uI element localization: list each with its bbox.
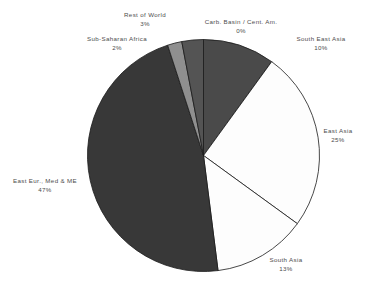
slice-label-name: East Asia (310, 126, 366, 135)
slice-label-name: South Asia (254, 255, 318, 264)
slice-label-name: Rest of World (108, 10, 182, 19)
slice-label-east-eur-med-me: East Eur., Med & ME 47% (4, 176, 86, 194)
slice-label-south-east-asia: South East Asia 10% (278, 34, 364, 52)
slice-label-name: Sub-Saharan Africa (68, 34, 166, 43)
pie-chart-screenshot: Rest of World 3% Carb. Basin / Cent. Am.… (0, 0, 370, 291)
slice-label-percent: 13% (254, 264, 318, 273)
slice-label-name: Carb. Basin / Cent. Am. (186, 17, 296, 26)
pie-slices-group (87, 40, 319, 272)
slice-label-percent: 25% (310, 135, 366, 144)
slice-label-carb-basin: Carb. Basin / Cent. Am. 0% (186, 17, 296, 35)
slice-label-sub-saharan-africa: Sub-Saharan Africa 2% (68, 34, 166, 52)
slice-label-percent: 47% (4, 185, 86, 194)
slice-label-name: South East Asia (278, 34, 364, 43)
slice-label-percent: 2% (68, 43, 166, 52)
slice-label-name: East Eur., Med & ME (4, 176, 86, 185)
slice-label-east-asia: East Asia 25% (310, 126, 366, 144)
slice-label-percent: 3% (108, 19, 182, 28)
slice-label-south-asia: South Asia 13% (254, 255, 318, 273)
slice-label-percent: 10% (278, 43, 364, 52)
slice-label-rest-of-world: Rest of World 3% (108, 10, 182, 28)
